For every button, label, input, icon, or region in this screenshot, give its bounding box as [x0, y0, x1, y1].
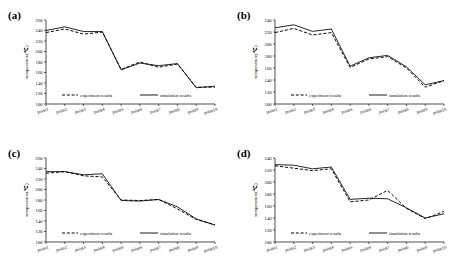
x-tick-label: point7 — [378, 106, 391, 114]
x-tick-label: point3 — [303, 106, 316, 114]
series-experiment — [275, 166, 444, 219]
y-axis-title: temperature(℃) — [24, 183, 29, 217]
x-tick-label: point2 — [284, 245, 296, 253]
plot-area-c: 100120140160180200220240260point1point2p… — [0, 138, 229, 276]
x-tick-label: point8 — [168, 244, 181, 252]
x-tick-label: point8 — [397, 244, 410, 252]
x-tick-label: point8 — [168, 106, 181, 114]
x-tick-label: point8 — [397, 106, 410, 114]
y-tick-label: 220 — [36, 39, 44, 44]
y-tick-label: 260 — [36, 156, 44, 161]
x-tick-label: point5 — [341, 106, 354, 114]
plot-area-b: 100120140160180200220240point1point2poin… — [229, 0, 458, 138]
y-axis-title: temperature(℃) — [253, 183, 258, 217]
y-tick-label: 100 — [265, 102, 273, 107]
y-tick-label: 240 — [265, 18, 273, 23]
y-tick-label: 160 — [36, 208, 44, 213]
x-tick-label: point4 — [322, 244, 335, 252]
y-tick-label: 100 — [36, 102, 44, 107]
y-tick-label: 200 — [265, 180, 273, 185]
y-axis-title: temperature(℃) — [24, 45, 29, 79]
series-simulation — [46, 172, 215, 226]
x-tick-label: point5 — [341, 244, 354, 252]
x-tick-label: point4 — [322, 106, 335, 114]
y-tick-label: 140 — [265, 78, 273, 83]
y-tick-label: 140 — [265, 216, 273, 221]
chart-panel-d: (d) 100120140160180200220240point1point2… — [229, 138, 458, 276]
x-tick-label: point1 — [266, 245, 278, 253]
x-tick-label: point3 — [74, 244, 87, 252]
x-tick-label: point10 — [432, 244, 447, 253]
chart-panel-a: (a) 100120140160180200220240260point1poi… — [0, 0, 229, 138]
x-tick-label: point6 — [130, 106, 143, 114]
legend-label-experiment: experiment results — [309, 93, 342, 98]
x-tick-label: point1 — [37, 245, 49, 253]
y-tick-label: 180 — [265, 54, 273, 59]
y-tick-label: 120 — [36, 91, 44, 96]
y-tick-label: 200 — [36, 187, 44, 192]
y-tick-label: 120 — [265, 228, 273, 233]
legend-label-simulation: simulation results — [160, 93, 191, 98]
series-simulation — [275, 165, 444, 218]
x-tick-label: point7 — [378, 244, 391, 252]
chart-svg-a: 100120140160180200220240260point1point2p… — [0, 0, 229, 138]
y-tick-label: 180 — [265, 192, 273, 197]
x-tick-label: point5 — [112, 106, 125, 114]
x-tick-label: point3 — [74, 106, 87, 114]
y-tick-label: 160 — [265, 66, 273, 71]
x-tick-label: point3 — [303, 244, 316, 252]
x-tick-label: point10 — [203, 106, 218, 115]
chart-svg-d: 100120140160180200220240point1point2poin… — [229, 138, 458, 276]
legend-label-simulation: simulation results — [389, 93, 420, 98]
series-simulation — [275, 25, 444, 85]
y-axis-title: temperature(℃) — [253, 45, 258, 79]
y-tick-label: 160 — [265, 204, 273, 209]
y-tick-label: 140 — [36, 81, 44, 86]
x-tick-label: point2 — [284, 107, 296, 115]
x-tick-label: point6 — [359, 244, 372, 252]
x-tick-label: point2 — [55, 245, 67, 253]
x-tick-label: point4 — [93, 106, 106, 114]
legend-label-experiment: experiment results — [80, 231, 113, 236]
x-tick-label: point7 — [149, 106, 162, 114]
x-tick-label: point10 — [203, 244, 218, 253]
y-tick-label: 140 — [36, 219, 44, 224]
x-tick-label: point4 — [93, 244, 106, 252]
y-tick-label: 100 — [265, 240, 273, 245]
x-tick-label: point9 — [187, 244, 200, 252]
y-tick-label: 220 — [265, 168, 273, 173]
x-tick-label: point1 — [266, 107, 278, 115]
y-tick-label: 240 — [265, 156, 273, 161]
y-tick-label: 220 — [36, 177, 44, 182]
chart-panel-c: (c) 100120140160180200220240260point1poi… — [0, 138, 229, 276]
chart-svg-c: 100120140160180200220240260point1point2p… — [0, 138, 229, 276]
y-tick-label: 260 — [36, 18, 44, 23]
legend-label-simulation: simulation results — [160, 231, 191, 236]
x-tick-label: point6 — [130, 244, 143, 252]
x-tick-label: point9 — [416, 244, 429, 252]
y-tick-label: 160 — [36, 70, 44, 75]
figure-grid: (a) 100120140160180200220240260point1poi… — [0, 0, 458, 276]
y-tick-label: 180 — [36, 60, 44, 65]
x-tick-label: point9 — [416, 106, 429, 114]
series-experiment — [46, 172, 215, 225]
y-tick-label: 120 — [36, 229, 44, 234]
x-tick-label: point6 — [359, 106, 372, 114]
y-tick-label: 220 — [265, 30, 273, 35]
legend-label-experiment: experiment results — [309, 231, 342, 236]
y-tick-label: 120 — [265, 90, 273, 95]
y-tick-label: 180 — [36, 198, 44, 203]
series-simulation — [46, 27, 215, 88]
chart-panel-b: (b) 100120140160180200220240point1point2… — [229, 0, 458, 138]
x-tick-label: point2 — [55, 107, 67, 115]
series-experiment — [46, 29, 215, 87]
x-tick-label: point10 — [432, 106, 447, 115]
y-tick-label: 100 — [36, 240, 44, 245]
plot-area-a: 100120140160180200220240260point1point2p… — [0, 0, 229, 138]
legend-label-experiment: experiment results — [80, 93, 113, 98]
y-tick-label: 200 — [265, 42, 273, 47]
y-tick-label: 240 — [36, 166, 44, 171]
x-tick-label: point5 — [112, 244, 125, 252]
x-tick-label: point9 — [187, 106, 200, 114]
y-tick-label: 240 — [36, 28, 44, 33]
